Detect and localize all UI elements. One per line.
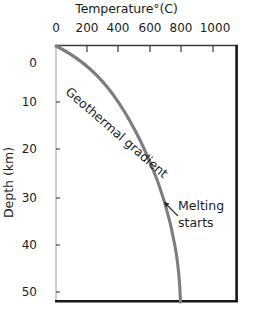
- melting-starts-line1: Melting: [178, 197, 224, 214]
- x-tick-marks: [87, 46, 213, 52]
- melting-starts-annotation: Melting starts: [178, 197, 224, 231]
- geothermal-gradient-figure: Temperature°(C) 0 200 400 600 800 1000 0…: [0, 0, 253, 311]
- y-tick-marks: [56, 102, 60, 292]
- plot-area: [0, 0, 253, 311]
- melting-starts-line2: starts: [178, 214, 224, 231]
